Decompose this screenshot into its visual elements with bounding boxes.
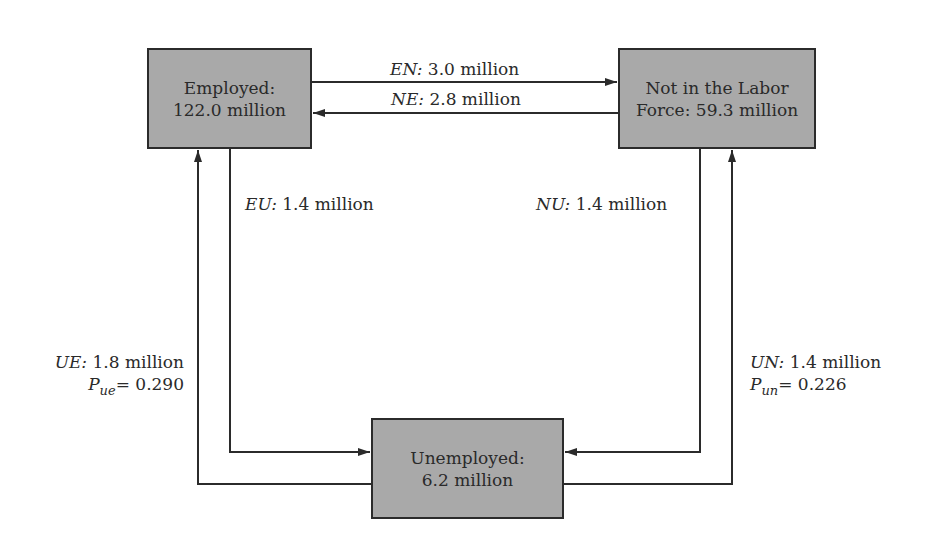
en-value: 3.0 million — [428, 59, 520, 79]
ue-prob-symbol: P — [88, 374, 99, 394]
un-prob-sub: un — [761, 383, 778, 398]
ne-label: NE: 2.8 million — [391, 88, 521, 110]
employed-value: 122.0 million — [173, 99, 286, 121]
ue-probability: Pue= 0.290 — [55, 373, 184, 397]
employed-box: Employed: 122.0 million — [147, 48, 312, 149]
nilf-box: Not in the Labor Force: 59.3 million — [618, 48, 816, 149]
eu-code: EU: — [245, 194, 277, 214]
nilf-label: Not in the Labor — [645, 77, 788, 99]
nu-label: NU: 1.4 million — [536, 193, 667, 215]
nu-code: NU: — [536, 194, 570, 214]
employed-label: Employed: — [184, 77, 275, 99]
eu-value: 1.4 million — [282, 194, 374, 214]
ue-prob-value: = 0.290 — [116, 374, 184, 394]
nilf-value: Force: 59.3 million — [636, 99, 798, 121]
nu-value: 1.4 million — [576, 194, 668, 214]
ne-value: 2.8 million — [429, 89, 521, 109]
eu-label: EU: 1.4 million — [245, 193, 374, 215]
un-value: 1.4 million — [790, 352, 882, 372]
un-code: UN: — [750, 352, 784, 372]
ue-prob-sub: ue — [100, 383, 116, 398]
ue-label: UE: 1.8 million Pue= 0.290 — [55, 351, 184, 397]
unemployed-box: Unemployed: 6.2 million — [371, 418, 564, 519]
en-label: EN: 3.0 million — [390, 58, 519, 80]
un-label: UN: 1.4 million Pun= 0.226 — [750, 351, 881, 397]
unemployed-label: Unemployed: — [410, 447, 524, 469]
en-code: EN: — [390, 59, 422, 79]
ne-code: NE: — [391, 89, 424, 109]
un-prob-symbol: P — [750, 374, 761, 394]
un-probability: Pun= 0.226 — [750, 373, 881, 397]
un-prob-value: = 0.226 — [778, 374, 846, 394]
ue-value: 1.8 million — [93, 352, 185, 372]
unemployed-value: 6.2 million — [422, 469, 514, 491]
ue-code: UE: — [55, 352, 87, 372]
